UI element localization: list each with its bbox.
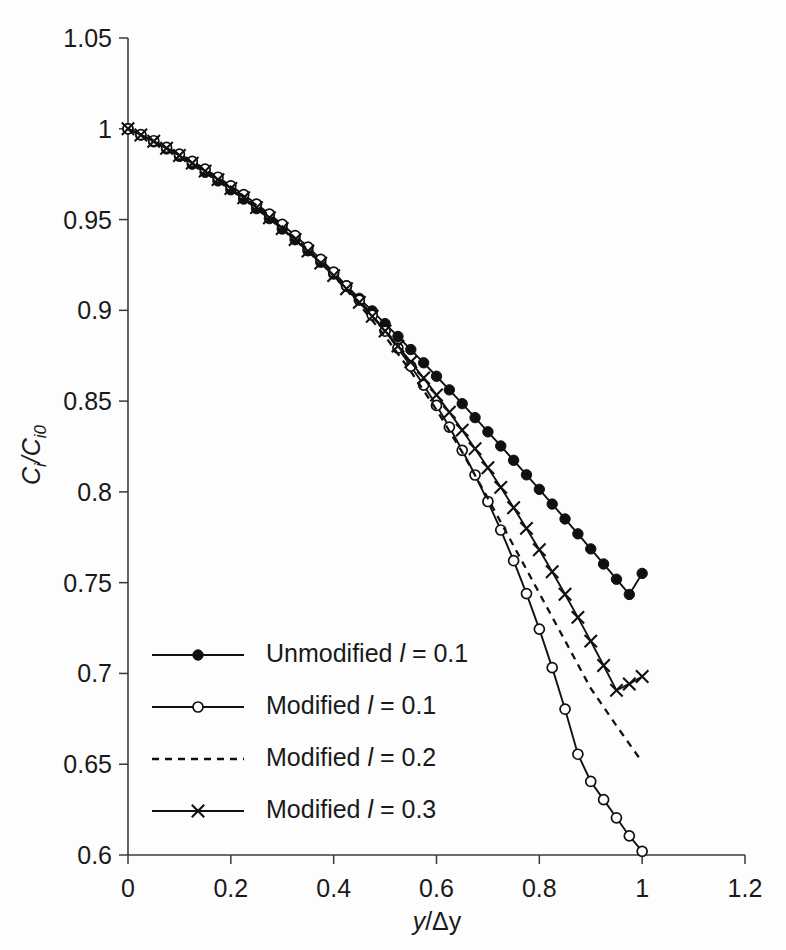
- legend-item-label: Modified l = 0.2: [266, 743, 436, 771]
- y-tick-label: 0.65: [63, 750, 112, 778]
- data-point-marker: [624, 831, 634, 841]
- data-point-marker: [624, 589, 634, 599]
- y-tick-label: 0.6: [77, 841, 112, 869]
- y-tick-label: 0.85: [63, 387, 112, 415]
- data-point-marker: [547, 663, 557, 673]
- data-point-marker: [573, 529, 583, 539]
- x-axis-title: y/Δy: [411, 907, 462, 935]
- data-point-marker: [534, 484, 544, 494]
- legend-item-label: Modified l = 0.1: [266, 691, 436, 719]
- y-tick-label: 0.9: [77, 296, 112, 324]
- y-axis-title-sub2: i0: [31, 424, 50, 438]
- legend-item-label: Modified l = 0.3: [266, 795, 436, 823]
- x-tick-label: 0.6: [419, 874, 454, 902]
- data-point-marker: [509, 556, 519, 566]
- data-point-marker: [193, 702, 203, 712]
- x-axis-title-den: /Δy: [425, 907, 462, 935]
- data-point-marker: [444, 385, 454, 395]
- data-point-marker: [508, 455, 518, 465]
- data-point-marker: [457, 398, 467, 408]
- legend-item-label: Unmodified l = 0.1: [266, 639, 468, 667]
- data-point-marker: [193, 650, 203, 660]
- svg-text:y/Δy: y/Δy: [411, 907, 462, 935]
- concentration-profile-chart: 0.60.650.70.750.80.850.90.9511.05 00.20.…: [0, 0, 786, 950]
- data-point-marker: [470, 412, 480, 422]
- data-point-marker: [393, 331, 403, 341]
- data-point-marker: [586, 776, 596, 786]
- data-point-marker: [560, 704, 570, 714]
- data-point-marker: [611, 574, 621, 584]
- y-tick-label: 0.8: [77, 478, 112, 506]
- x-tick-label: 0: [121, 874, 135, 902]
- data-point-marker: [560, 514, 570, 524]
- y-tick-label: 0.7: [77, 659, 112, 687]
- x-tick-label: 0.8: [522, 874, 557, 902]
- data-point-marker: [547, 499, 557, 509]
- data-point-marker: [418, 358, 428, 368]
- x-tick-label: 1: [635, 874, 649, 902]
- data-point-marker: [637, 568, 647, 578]
- y-tick-label: 1: [98, 115, 112, 143]
- y-axis-title-c1: C: [17, 466, 45, 485]
- x-tick-label: 0.2: [213, 874, 248, 902]
- data-point-marker: [598, 559, 608, 569]
- data-point-marker: [431, 371, 441, 381]
- data-point-marker: [599, 795, 609, 805]
- data-point-marker: [534, 624, 544, 634]
- y-tick-label: 0.75: [63, 569, 112, 597]
- x-tick-label: 0.4: [316, 874, 351, 902]
- data-point-marker: [406, 344, 416, 354]
- data-point-marker: [483, 427, 493, 437]
- y-tick-label: 1.05: [63, 24, 112, 52]
- data-point-marker: [637, 846, 647, 856]
- data-point-marker: [521, 589, 531, 599]
- data-point-marker: [521, 470, 531, 480]
- y-tick-label: 0.95: [63, 206, 112, 234]
- data-point-marker: [573, 749, 583, 759]
- data-point-marker: [496, 441, 506, 451]
- x-tick-label: 1.2: [728, 874, 763, 902]
- chart-figure: 0.60.650.70.750.80.850.90.9511.05 00.20.…: [0, 0, 786, 950]
- y-axis-title-mid: /C: [17, 437, 45, 465]
- data-point-marker: [611, 813, 621, 823]
- data-point-marker: [586, 544, 596, 554]
